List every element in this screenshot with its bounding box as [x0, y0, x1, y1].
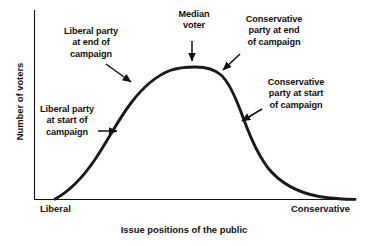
annotation-median-voter: Median voter: [163, 9, 225, 32]
figure-canvas: Liberal party at end of campaign Liberal…: [0, 0, 368, 246]
x-axis-title: Issue positions of the public: [0, 224, 368, 235]
arrow-conservative-end: [223, 54, 240, 70]
annotation-liberal-party-end: Liberal party at end of campaign: [52, 26, 130, 60]
annotation-conservative-party-end: Conservative party at end of campaign: [232, 14, 316, 48]
annotation-conservative-party-start: Conservative party at start of campaign: [254, 77, 338, 111]
y-axis-title: Number of voters: [14, 42, 25, 162]
annotation-liberal-party-start: Liberal party at start of campaign: [28, 104, 106, 138]
arrow-liberal-end: [106, 64, 131, 82]
x-axis-tick-liberal: Liberal: [40, 203, 71, 214]
x-axis-tick-conservative: Conservative: [291, 203, 350, 214]
